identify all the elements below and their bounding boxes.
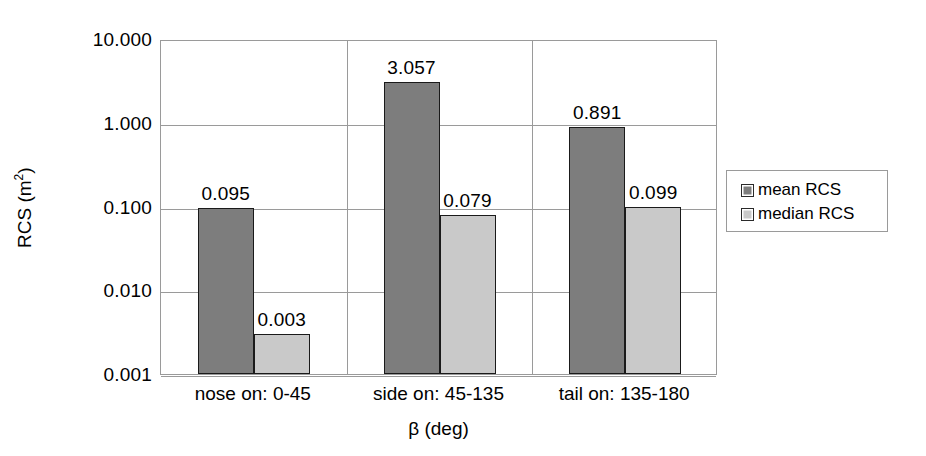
y-axis-tick-label: 0.001 — [103, 364, 152, 386]
bar-mean — [198, 208, 254, 374]
y-axis-title-base: RCS (m — [14, 180, 35, 248]
legend-label: mean RCS — [758, 180, 841, 200]
bar-value-label: 3.057 — [374, 57, 450, 79]
gridline-vertical — [347, 41, 348, 374]
bar-median — [254, 334, 310, 374]
y-axis-tick-label: 0.010 — [103, 280, 152, 302]
bar-median — [625, 207, 681, 374]
bar-value-label: 0.079 — [430, 190, 506, 212]
bar-mean — [384, 82, 440, 374]
plot-area: 0.0950.0033.0570.0790.8910.099 — [160, 40, 717, 375]
legend-item: median RCS — [741, 202, 887, 226]
bar-value-label: 0.095 — [188, 183, 264, 205]
legend-item: mean RCS — [741, 178, 887, 202]
x-axis-category-label: tail on: 135-180 — [531, 383, 717, 405]
x-axis-title: β (deg) — [160, 418, 717, 440]
y-axis-title: RCS (m2) — [12, 118, 35, 298]
y-axis-tick-label: 0.100 — [103, 197, 152, 219]
y-axis-tick-label: 1.000 — [103, 113, 152, 135]
gridline-vertical — [532, 41, 533, 374]
y-axis-title-exponent: 2 — [12, 174, 26, 181]
bar-median — [440, 215, 496, 374]
x-axis-category-label: nose on: 0-45 — [160, 383, 346, 405]
y-axis-tick-label: 10.000 — [93, 29, 152, 51]
chart-figure: RCS (m2) 10.0001.0000.1000.0100.001 0.09… — [0, 0, 926, 456]
bar-value-label: 0.891 — [559, 102, 635, 124]
bar-mean — [569, 127, 625, 374]
gridline-horizontal — [161, 376, 716, 377]
legend-label: median RCS — [758, 204, 854, 224]
y-axis-tick-labels: 10.0001.0000.1000.0100.001 — [52, 40, 152, 375]
chart-legend: mean RCSmedian RCS — [726, 170, 888, 232]
legend-swatch-mean — [741, 184, 754, 197]
bar-value-label: 0.099 — [615, 182, 691, 204]
legend-swatch-median — [741, 208, 754, 221]
bar-value-label: 0.003 — [244, 309, 320, 331]
x-axis-category-label: side on: 45-135 — [346, 383, 532, 405]
y-axis-title-close: ) — [14, 167, 35, 173]
